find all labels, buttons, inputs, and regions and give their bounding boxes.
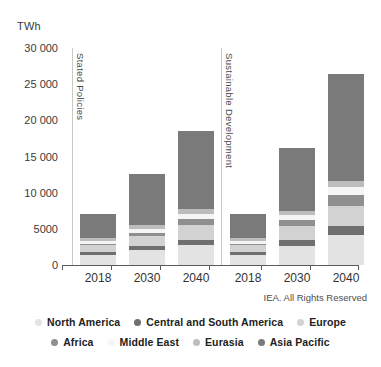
y-axis-tick-10000: 10 000 [0,187,58,199]
legend-item-central-and-south-america[interactable]: Central and South America [134,316,283,328]
legend-label-central-and-south-america: Central and South America [146,316,283,328]
bar-segment-north-america[interactable] [80,255,116,265]
legend-row-1: North AmericaCentral and South AmericaEu… [0,312,381,332]
bar-segment-asia-pacific[interactable] [279,148,315,211]
x-axis-left-cap [62,265,63,270]
bar-segment-europe[interactable] [279,226,315,240]
bar-sustainable-development-2018[interactable] [230,214,266,265]
x-axis-label-2-2040: 2040 [183,271,210,285]
y-axis-tick-25000: 25 000 [0,78,58,90]
legend-item-asia-pacific[interactable]: Asia Pacific [258,336,330,348]
y-axis-tick-15000: 15 000 [0,151,58,163]
bar-segment-asia-pacific[interactable] [328,74,364,181]
chart-legend: North AmericaCentral and South AmericaEu… [0,312,381,352]
legend-label-north-america: North America [47,316,120,328]
x-axis-tick-labels: 201820302040201820302040 [62,271,359,289]
y-axis-tick-0: 0 [0,259,58,271]
bars-layer [62,48,359,265]
bar-segment-europe[interactable] [80,245,116,252]
legend-label-africa: Africa [63,336,93,348]
legend-item-eurasia[interactable]: Eurasia [193,336,244,348]
bar-segment-africa[interactable] [328,195,364,206]
y-axis-tick-30000: 30 000 [0,42,58,54]
legend-label-asia-pacific: Asia Pacific [270,336,330,348]
x-axis-tick-mark [209,265,210,270]
credit-text: IEA. All Rights Reserved [264,292,368,303]
bar-segment-asia-pacific[interactable] [80,214,116,238]
legend-label-eurasia: Eurasia [205,336,244,348]
legend-swatch-eurasia-icon [193,339,200,346]
bar-stated-policies-2018[interactable] [80,214,116,265]
legend-label-europe: Europe [309,316,346,328]
bar-segment-north-america[interactable] [328,235,364,265]
bar-segment-north-america[interactable] [230,255,266,265]
bar-sustainable-development-2030[interactable] [279,148,315,265]
bar-segment-middle-east[interactable] [328,187,364,195]
x-axis-tick-mark [111,265,112,270]
y-axis-tick-20000: 20 000 [0,114,58,126]
bar-stated-policies-2030[interactable] [129,174,165,265]
y-axis-tick-labels: 30 00025 00020 00015 00010 00050000 [0,44,58,267]
bar-sustainable-development-2040[interactable] [328,74,364,265]
bar-stated-policies-2040[interactable] [178,131,214,265]
legend-swatch-europe-icon [297,319,304,326]
bar-segment-north-america[interactable] [279,246,315,265]
legend-label-middle-east: Middle East [120,336,179,348]
x-axis-tick-mark [261,265,262,270]
x-axis-line [62,265,359,266]
bar-segment-europe[interactable] [230,245,266,252]
x-axis-label-4-2030: 2030 [284,271,311,285]
x-axis-label-0-2018: 2018 [85,271,112,285]
legend-item-north-america[interactable]: North America [35,316,120,328]
x-axis-tick-mark [160,265,161,270]
legend-row-2: AfricaMiddle EastEurasiaAsia Pacific [0,332,381,352]
bar-segment-asia-pacific[interactable] [129,174,165,225]
bar-segment-asia-pacific[interactable] [178,131,214,208]
x-axis-label-5-2040: 2040 [333,271,360,285]
legend-item-africa[interactable]: Africa [51,336,93,348]
x-axis-right-cap [358,265,359,270]
legend-swatch-asia-pacific-icon [258,339,265,346]
legend-item-middle-east[interactable]: Middle East [108,336,179,348]
y-axis-tick-5000: 5000 [0,223,58,235]
x-axis-label-1-2030: 2030 [134,271,161,285]
x-axis-label-3-2018: 2018 [235,271,262,285]
chart-container: TWh 30 00025 00020 00015 00010 00050000 … [0,0,381,367]
legend-item-europe[interactable]: Europe [297,316,346,328]
bar-segment-central-and-south-america[interactable] [328,226,364,236]
legend-swatch-north-america-icon [35,319,42,326]
bar-segment-north-america[interactable] [129,250,165,265]
bar-segment-asia-pacific[interactable] [230,214,266,239]
bar-segment-europe[interactable] [129,236,165,246]
x-axis-tick-mark [310,265,311,270]
legend-swatch-middle-east-icon [108,339,115,346]
y-axis-unit-label: TWh [17,20,41,32]
legend-swatch-africa-icon [51,339,58,346]
legend-swatch-central-and-south-america-icon [134,319,141,326]
bar-segment-europe[interactable] [328,206,364,226]
bar-segment-europe[interactable] [178,225,214,239]
bar-segment-north-america[interactable] [178,245,214,265]
